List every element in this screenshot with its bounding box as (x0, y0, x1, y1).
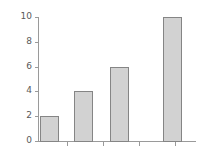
y-axis-line (38, 17, 39, 142)
bar (40, 116, 59, 142)
x-tick-mark (139, 142, 140, 146)
bar-chart: 0246810 (0, 0, 201, 154)
bar (110, 67, 129, 142)
y-axis-tick-label: 0 (0, 136, 32, 145)
bar (163, 17, 182, 142)
y-axis-tick-label: 2 (0, 111, 32, 120)
x-tick-mark (67, 142, 68, 146)
y-tick-mark (35, 67, 38, 68)
y-tick-mark (35, 42, 38, 43)
y-tick-mark (35, 141, 38, 142)
y-axis-tick-label: 10 (0, 12, 32, 21)
y-tick-mark (35, 17, 38, 18)
y-axis-tick-label: 4 (0, 86, 32, 95)
x-tick-mark (175, 142, 176, 146)
y-axis-tick-label: 6 (0, 62, 32, 71)
y-tick-mark (35, 116, 38, 117)
y-tick-mark (35, 91, 38, 92)
bar (74, 91, 93, 142)
x-tick-mark (103, 142, 104, 146)
plot-area: 0246810 (0, 0, 201, 154)
y-axis-tick-label: 8 (0, 37, 32, 46)
